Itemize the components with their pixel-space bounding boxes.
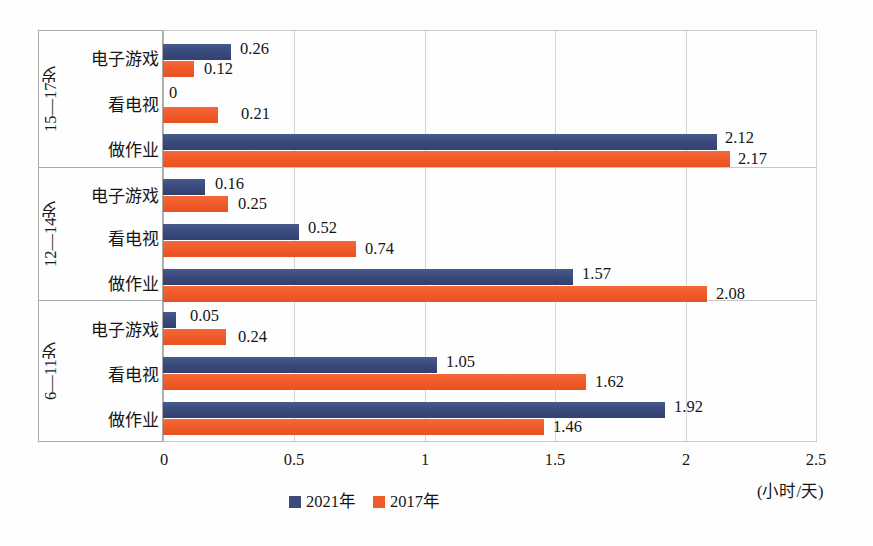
bar-2021-tv-12-14 [163,224,299,240]
bar-2021-homework-6-11 [163,402,665,418]
bar-value-2017-homework-6-11: 1.46 [553,419,582,436]
bar-2017-homework-6-11 [163,419,544,435]
group-label-column: 15—17岁 12—14岁 6—11岁 [38,30,64,442]
category-label-tv-6-11: 看电视 [108,367,159,384]
bar-value-2021-homework-6-11: 1.92 [674,399,703,416]
bar-2017-homework-12-14 [163,286,707,302]
gridline-2_5 [816,30,817,442]
bar-2017-tv-6-11 [163,374,586,390]
gridline-2 [686,30,687,442]
bar-2021-homework-12-14 [163,269,573,285]
legend-item-2021[interactable]: 2021年 [289,494,356,511]
horizontal-bar-chart: 15—17岁 12—14岁 6—11岁 电子游戏 看电视 做作业 电子游戏 看电… [0,0,873,546]
bar-value-2017-homework-15-17: 2.17 [738,151,767,168]
category-label-homework-6-11: 做作业 [108,412,159,429]
group-separator-top [163,30,817,31]
bar-2017-video-games-6-11 [163,329,226,345]
xtick-0_5: 0.5 [284,450,305,470]
xtick-1_5: 1.5 [545,450,566,470]
category-label-video-games-6-11: 电子游戏 [91,322,159,339]
bar-value-2021-tv-12-14: 0.52 [308,220,337,237]
bar-value-2021-homework-15-17: 2.12 [725,130,754,147]
legend-label-2021: 2021年 [306,494,356,511]
bar-value-2021-video-games-6-11: 0.05 [190,308,219,325]
bar-2021-video-games-15-17 [163,44,231,60]
xtick-2: 2 [682,450,690,470]
group-label-6-11: 6—11岁 [38,300,64,442]
bar-value-2021-video-games-12-14: 0.16 [215,176,244,193]
category-label-video-games-12-14: 电子游戏 [91,188,159,205]
bar-value-2017-homework-12-14: 2.08 [716,286,745,303]
bar-value-2017-video-games-6-11: 0.24 [238,329,267,346]
bar-2017-tv-12-14 [163,241,356,257]
bar-value-2021-homework-12-14: 1.57 [582,266,611,283]
bar-2017-homework-15-17 [163,151,730,167]
bar-2021-video-games-6-11 [163,312,176,328]
category-label-homework-12-14: 做作业 [108,276,159,293]
legend-item-2017[interactable]: 2017年 [373,494,440,511]
axis-unit-label: (小时/天) [757,478,824,502]
legend-swatch-icon-2021 [289,496,301,508]
bar-value-2017-tv-12-14: 0.74 [365,241,394,258]
bar-2017-tv-15-17 [163,107,218,123]
category-label-tv-12-14: 看电视 [108,231,159,248]
legend: 2021年 2017年 [289,494,440,511]
group-separator-1 [163,167,817,168]
bar-value-2017-video-games-15-17: 0.12 [204,61,233,78]
xtick-2_5: 2.5 [806,450,827,470]
bar-2017-video-games-12-14 [163,196,228,212]
category-label-video-games-15-17: 电子游戏 [91,51,159,68]
legend-swatch-icon-2017 [373,496,385,508]
group-label-15-17: 15—17岁 [38,30,64,168]
bar-2017-video-games-15-17 [163,61,194,77]
category-label-column: 电子游戏 看电视 做作业 电子游戏 看电视 做作业 电子游戏 看电视 做作业 [64,30,163,442]
plot-area: 0.26 0.12 0 0.21 2.12 2.17 0.16 0.25 0.5… [163,30,817,442]
bar-value-2021-tv-15-17: 0 [169,85,177,102]
group-separator-bottom [163,441,817,442]
bar-2021-homework-15-17 [163,134,717,150]
legend-label-2017: 2017年 [390,494,440,511]
bar-value-2017-tv-15-17: 0.21 [241,106,270,123]
bar-value-2021-tv-6-11: 1.05 [446,354,475,371]
bar-value-2017-video-games-12-14: 0.25 [238,196,267,213]
xtick-1: 1 [421,450,429,470]
bar-value-2017-tv-6-11: 1.62 [595,374,624,391]
bar-2021-video-games-12-14 [163,179,205,195]
group-label-12-14: 12—14岁 [38,167,64,301]
bar-value-2021-video-games-15-17: 0.26 [240,41,269,58]
xtick-0: 0 [160,450,168,470]
category-label-tv-15-17: 看电视 [108,97,159,114]
category-label-homework-15-17: 做作业 [108,142,159,159]
bar-2021-tv-6-11 [163,357,437,373]
